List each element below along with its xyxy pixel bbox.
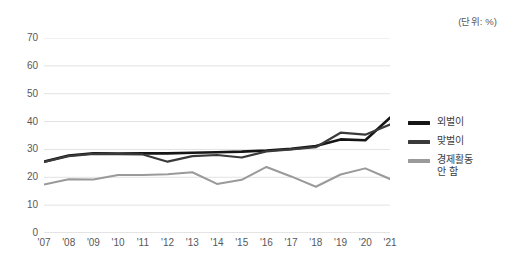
legend-item[interactable]: 경제활동 안 함 [408, 154, 506, 178]
x-tick-label: '07 [37, 238, 50, 248]
series-lines [44, 118, 390, 187]
y-tick-label: 30 [0, 144, 38, 154]
legend-label: 외벌이 [437, 116, 464, 128]
x-tick-label: '08 [62, 238, 75, 248]
legend-item[interactable]: 외벌이 [408, 116, 506, 128]
y-tick-label: 50 [0, 89, 38, 99]
x-tick-label: '15 [235, 238, 248, 248]
y-axis: 010203040506070 [0, 38, 38, 233]
x-tick-label: '20 [359, 238, 372, 248]
legend-swatch-icon [408, 140, 430, 144]
x-tick-label: '21 [383, 238, 396, 248]
x-tick-label: '13 [186, 238, 199, 248]
plot-area [44, 38, 390, 233]
series-line [44, 125, 390, 162]
x-tick-label: '17 [285, 238, 298, 248]
x-tick-label: '19 [334, 238, 347, 248]
y-tick-label: 10 [0, 200, 38, 210]
unit-annotation: (단위: %) [458, 14, 497, 28]
y-tick-label: 0 [0, 228, 38, 238]
y-tick-label: 60 [0, 61, 38, 71]
y-tick-label: 70 [0, 33, 38, 43]
x-tick-label: '18 [309, 238, 322, 248]
legend-label: 맞벌이 [437, 135, 464, 147]
legend-label: 경제활동 안 함 [437, 154, 473, 178]
y-tick-label: 20 [0, 172, 38, 182]
x-tick-label: '10 [112, 238, 125, 248]
legend-swatch-icon [408, 121, 430, 125]
x-tick-label: '12 [161, 238, 174, 248]
x-tick-label: '16 [260, 238, 273, 248]
legend-item[interactable]: 맞벌이 [408, 135, 506, 147]
y-tick-label: 40 [0, 117, 38, 127]
legend-swatch-icon [408, 159, 430, 163]
gridlines [44, 38, 390, 233]
x-tick-label: '09 [87, 238, 100, 248]
line-chart: (단위: %) 010203040506070 '07'08'09'10'11'… [0, 0, 509, 264]
x-tick-label: '11 [137, 238, 149, 248]
x-tick-label: '14 [210, 238, 223, 248]
x-axis: '07'08'09'10'11'12'13'14'15'16'17'18'19'… [44, 238, 390, 256]
chart-legend: 외벌이맞벌이경제활동 안 함 [408, 116, 506, 185]
plot-canvas [44, 38, 390, 233]
